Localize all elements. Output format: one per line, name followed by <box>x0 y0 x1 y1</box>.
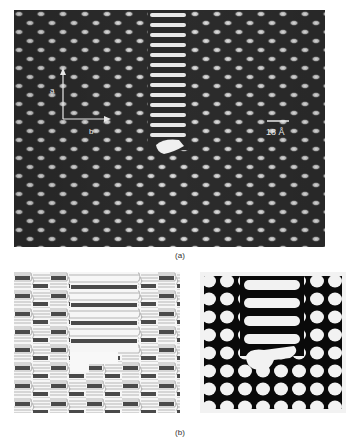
structural-model <box>14 272 180 413</box>
lattice-image: a b 18 Å <box>14 10 325 247</box>
simulated-image <box>200 272 346 413</box>
defect-stripe <box>148 10 188 154</box>
caption-a: (a) <box>165 251 195 260</box>
caption-b: (b) <box>165 428 195 437</box>
scale-bar-label: 18 Å <box>266 127 285 137</box>
axis-b-label: b <box>89 127 94 136</box>
micrograph-panel-a: a b 18 Å <box>14 10 325 247</box>
axis-a-label: a <box>50 86 55 95</box>
